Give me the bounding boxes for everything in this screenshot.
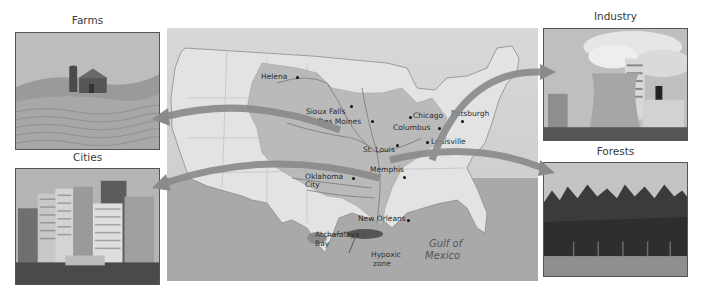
farms-caption: Farms [15,14,160,26]
label-gulf-line1: Gulf of [429,238,462,249]
city-label-st-louis: St. Louis [363,146,395,154]
city-label-pittsburgh: Pittsburgh [451,110,489,118]
label-atchafalaya-line1: Atchafalaya [315,231,359,239]
label-gulf-line2: Mexico [425,250,460,261]
label-hypoxic-line1: Hypoxic [371,251,401,259]
industry-caption: Industry [543,10,688,22]
city-label-new-orleans: New Orleans [358,215,406,223]
city-label-columbus: Columbus [393,124,430,132]
forests-photo [543,162,688,277]
label-hypoxic-line2: zone [373,260,391,268]
city-label-sioux-falls: Sioux Falls [306,108,345,116]
industry-photo [543,28,688,141]
label-atchafalaya-line2: Bay [315,240,329,248]
city-label-memphis: Memphis [370,166,404,174]
forests-caption: Forests [543,145,688,157]
city-label-oklahoma-city: Oklahoma City [305,173,350,189]
city-label-helena: Helena [261,73,287,81]
city-label-des-moines: Des Moines [318,118,361,126]
cities-photo [15,168,160,285]
city-label-louisville: Louisville [431,138,466,146]
farms-photo [15,32,160,150]
watershed-map: Helena Sioux Falls Des Moines Chicago Pi… [167,28,538,281]
cities-caption: Cities [15,151,160,163]
city-label-chicago: Chicago [413,112,443,120]
